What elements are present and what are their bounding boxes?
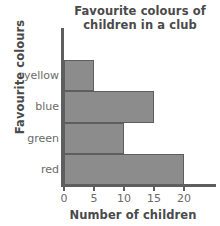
y-axis-category-labels: yellow blue green red <box>0 60 59 185</box>
x-tick-label-5: 5 <box>82 192 106 205</box>
x-axis-title: Number of children <box>46 208 220 222</box>
plot-area <box>64 60 210 185</box>
bar-row-red <box>64 154 210 185</box>
y-axis-line <box>61 28 64 186</box>
x-tick-label-20: 20 <box>172 192 196 205</box>
x-tick-label-10: 10 <box>112 192 136 205</box>
x-tick-label-0: 0 <box>52 192 76 205</box>
bar-green <box>64 123 124 154</box>
x-tick-label-15: 15 <box>142 192 166 205</box>
x-tick-mark-0 <box>63 186 65 191</box>
category-label-red: red <box>1 154 59 185</box>
chart-title-line-2: children in a club <box>62 18 218 32</box>
chart-title: Favourite colours of children in a club <box>62 4 218 32</box>
bar-row-yellow <box>64 60 210 91</box>
x-tick-mark-5 <box>93 186 95 191</box>
x-tick-mark-10 <box>123 186 125 191</box>
bar-chart-figure: Favourite colours of children in a club … <box>0 0 220 226</box>
category-label-green: green <box>1 123 59 154</box>
category-label-yellow: yellow <box>1 60 59 91</box>
bar-yellow <box>64 60 94 91</box>
category-label-blue: blue <box>1 91 59 122</box>
bar-row-blue <box>64 91 210 122</box>
x-tick-mark-15 <box>153 186 155 191</box>
x-tick-mark-20 <box>183 186 185 191</box>
chart-title-line-1: Favourite colours of <box>62 4 218 18</box>
bar-red <box>64 154 184 185</box>
bar-blue <box>64 91 154 122</box>
bar-row-green <box>64 123 210 154</box>
x-axis-ticks: 05101520 <box>64 186 214 208</box>
